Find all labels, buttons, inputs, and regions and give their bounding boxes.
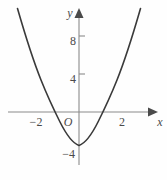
x-axis-label: x [156, 115, 163, 129]
plot-canvas: 8 4 −2 2 −4 O x y [0, 0, 167, 180]
x-tick-label-2: 2 [119, 115, 125, 129]
y-tick-label-4: 4 [70, 72, 76, 86]
parabola-figure: 8 4 −2 2 −4 O x y [0, 0, 167, 180]
y-axis-label: y [66, 6, 73, 20]
origin-label: O [64, 115, 73, 129]
y-tick-label-8: 8 [70, 34, 76, 48]
x-tick-label-neg-2: −2 [30, 115, 43, 129]
vertex-label-neg-4: −4 [62, 147, 75, 161]
y-axis-arrow-icon [75, 8, 84, 18]
